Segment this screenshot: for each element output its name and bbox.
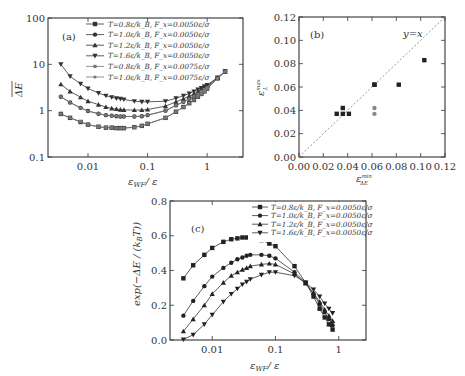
- svg-text:exp(−ΔE / (kBT)): exp(−ΔE / (kBT)): [131, 222, 144, 306]
- data-point: [210, 246, 214, 250]
- data-point: [58, 82, 63, 87]
- data-point: [210, 274, 214, 278]
- data-point: [115, 127, 118, 130]
- data-point: [122, 127, 125, 130]
- x-tick-label: 0.02: [312, 161, 334, 172]
- legend-entry: T=0.8ε/k_B, F_x=0.0075ε/σ: [108, 62, 210, 71]
- scatter-point: [422, 58, 426, 62]
- data-point: [85, 99, 90, 104]
- legend-marker: [93, 32, 97, 36]
- data-point: [191, 299, 195, 303]
- data-point: [115, 115, 118, 118]
- y-tick-label: 0.00: [274, 152, 296, 163]
- data-point: [140, 115, 143, 118]
- y-tick-label: 0.6: [151, 230, 167, 241]
- panel-c-series: [181, 235, 335, 342]
- y-tick-label: 100: [26, 13, 45, 24]
- data-point: [216, 77, 219, 80]
- data-point: [188, 97, 191, 100]
- panel-c-x-axis-label: εWF/ ε: [250, 360, 279, 373]
- panel-c-boltzmann-factor-chart: 0.010.110.00.20.40.60.8 (c) T=0.8ε/k_B, …: [131, 196, 373, 374]
- data-point: [78, 82, 83, 87]
- data-point: [188, 102, 191, 105]
- data-point: [104, 114, 107, 117]
- data-point: [273, 256, 277, 260]
- scatter-point: [335, 112, 339, 116]
- panel-b-y-axis-label: εmaxL: [255, 78, 268, 96]
- panel-a-y-axis-label: ΔE: [12, 81, 24, 98]
- legend-entry: T=1.6ε/k_B, F_x=0.0050ε/σ: [271, 228, 373, 237]
- y-tick-label: 0.06: [274, 82, 296, 93]
- data-point: [68, 101, 71, 104]
- data-point: [86, 123, 89, 126]
- data-point: [191, 333, 196, 338]
- data-point: [182, 105, 185, 108]
- data-point: [110, 126, 113, 129]
- data-point: [244, 280, 249, 285]
- panel-a-legend: T=0.8ε/k_B, F_x=0.0050ε/σT=1.0ε/k_B, F_x…: [86, 20, 210, 82]
- data-point: [221, 240, 225, 244]
- data-point: [67, 74, 72, 79]
- data-point: [79, 106, 82, 109]
- data-point: [330, 323, 334, 327]
- data-point: [229, 273, 234, 278]
- y-tick-label: 0.08: [274, 58, 296, 69]
- data-point: [110, 114, 113, 117]
- legend-marker: [93, 65, 96, 68]
- data-point: [133, 126, 136, 129]
- data-point: [192, 98, 195, 101]
- data-point: [330, 311, 335, 316]
- legend-entry: T=1.0ε/k_B, F_x=0.0075ε/σ: [108, 73, 210, 82]
- panel-a-label: (a): [62, 31, 76, 42]
- panel-a-x-axis-label: εWF/ ε: [128, 176, 157, 189]
- x-tick-label: 0.08: [385, 161, 407, 172]
- scatter-point: [372, 106, 376, 110]
- data-point: [292, 264, 296, 268]
- data-point: [229, 237, 233, 241]
- data-point: [182, 100, 185, 103]
- data-point: [97, 112, 100, 115]
- data-point: [59, 95, 62, 98]
- y-tick-label: 0.10: [274, 35, 296, 46]
- data-point: [235, 236, 239, 240]
- data-point: [235, 257, 239, 261]
- x-tick-label: 0.06: [361, 161, 383, 172]
- data-point: [196, 95, 199, 98]
- y-tick-label: 0.12: [274, 12, 296, 23]
- x-tick-label: 0.00: [288, 161, 310, 172]
- x-tick-label: 0.1: [268, 344, 284, 355]
- data-point: [202, 253, 206, 257]
- y-tick-label: 10: [32, 59, 45, 70]
- legend-entry: T=1.0ε/k_B, F_x=0.0050ε/σ: [108, 30, 210, 39]
- data-point: [202, 284, 206, 288]
- y-tick-label: 0.02: [274, 128, 296, 139]
- x-tick-label: 1: [336, 344, 342, 355]
- panel-c-y-axis-label: exp(−ΔE / (kBT)): [131, 222, 144, 306]
- data-point: [67, 89, 72, 94]
- data-point: [267, 241, 271, 245]
- panel-a-log-energy-barrier-chart: 0.010.110.1110100 (a) T=0.8ε/k_B, F_x=0.…: [12, 13, 243, 190]
- data-point: [174, 104, 177, 107]
- data-point: [326, 313, 331, 318]
- y-tick-label: 0.0: [151, 335, 167, 346]
- data-point: [97, 125, 100, 128]
- y-tick-label: 0.4: [151, 265, 167, 276]
- svg-text:εmaxL: εmaxL: [255, 78, 268, 96]
- x-tick-label: 0.12: [434, 161, 456, 172]
- data-point: [196, 92, 199, 95]
- panel-c-legend: T=0.8ε/k_B, F_x=0.0050ε/σT=1.0ε/k_B, F_x…: [248, 202, 373, 242]
- figure-canvas: 0.010.110.1110100 (a) T=0.8ε/k_B, F_x=0.…: [0, 0, 465, 376]
- scatter-point: [372, 112, 376, 116]
- data-point: [322, 315, 326, 319]
- data-point: [223, 70, 226, 73]
- scatter-point: [347, 112, 351, 116]
- scatter-point: [341, 106, 345, 110]
- data-point: [181, 313, 185, 317]
- legend-entry: T=1.6ε/k_B, F_x=0.0050ε/σ: [108, 51, 210, 60]
- data-point: [221, 266, 225, 270]
- data-point: [267, 261, 272, 266]
- x-tick-label: 0.01: [77, 161, 99, 172]
- data-point: [86, 109, 89, 112]
- data-point: [146, 122, 149, 125]
- x-tick-label: 1: [204, 161, 210, 172]
